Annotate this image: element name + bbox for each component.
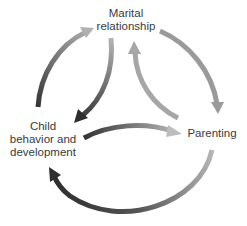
node-label-line: Parenting	[178, 127, 246, 140]
arrow-parenting-to-child	[49, 150, 212, 211]
arrows-layer	[0, 0, 247, 226]
node-marital-relationship: Marital relationship	[86, 7, 166, 33]
arrow-parenting-to-marital	[128, 41, 178, 118]
node-label-line: development	[2, 146, 84, 159]
arrow-child-to-marital	[38, 27, 94, 107]
node-label-line: Child	[2, 120, 84, 133]
reciprocal-influence-diagram: Marital relationship Child behavior and …	[0, 0, 247, 226]
node-label-line: Marital	[86, 7, 166, 20]
node-child-behavior: Child behavior and development	[2, 120, 84, 159]
node-parenting: Parenting	[178, 127, 246, 140]
node-label-line: relationship	[86, 20, 166, 33]
arrow-marital-to-child	[74, 38, 112, 123]
node-label-line: behavior and	[2, 133, 84, 146]
arrow-child-to-parenting	[84, 125, 182, 138]
arrow-marital-to-parenting	[160, 31, 224, 114]
